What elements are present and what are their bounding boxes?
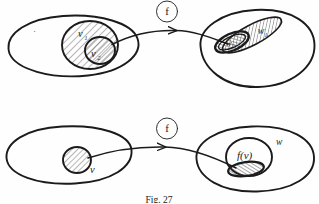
svg-text:1: 1	[85, 35, 88, 41]
svg-text:2: 2	[98, 55, 101, 61]
figure-container: ·	[0, 0, 319, 203]
set-fv	[227, 160, 265, 179]
svg-text:2: 2	[232, 43, 235, 49]
map-label-circle-bottom: f	[157, 118, 178, 139]
svg-text:1: 1	[265, 32, 268, 38]
svg-text:v: v	[78, 28, 83, 39]
svg-text:v: v	[91, 48, 96, 59]
label-v: v	[90, 164, 95, 175]
bottom-panel: f v f(v) w	[6, 118, 314, 192]
figure-caption: Fig. 27	[146, 195, 173, 204]
map-label-circle-top: f	[157, 1, 178, 22]
map-label-bottom: f	[165, 122, 169, 134]
top-panel: ·	[8, 1, 314, 87]
map-label-top: f	[165, 5, 169, 17]
bottom-codomain-ellipse	[196, 126, 314, 191]
figure-svg: ·	[0, 0, 319, 203]
map-arrow-bottom	[88, 147, 236, 168]
label-fv: f(v)	[237, 149, 253, 162]
map-arrow-top	[112, 30, 228, 44]
domain-point-marker: ·	[33, 27, 36, 36]
set-v	[63, 147, 91, 173]
label-w: w	[276, 137, 283, 147]
